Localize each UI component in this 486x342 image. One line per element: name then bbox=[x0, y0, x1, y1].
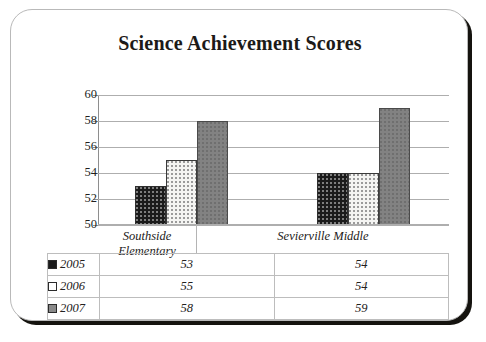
value-cell-2005-1: 54 bbox=[274, 254, 449, 276]
bar-2005-1 bbox=[317, 173, 348, 225]
y-axis-label-54: 54 bbox=[63, 165, 97, 180]
y-axis-line bbox=[98, 95, 99, 225]
table-body: 200553542006555420075859 bbox=[48, 254, 449, 320]
category-label-sevierville: Sevierville Middle bbox=[197, 229, 449, 244]
bar-2006-0 bbox=[166, 160, 197, 225]
plot-area: 505254565860 bbox=[98, 95, 449, 225]
table-row: 20065554 bbox=[48, 276, 449, 298]
bar-2006-1 bbox=[348, 173, 379, 225]
gridline-50 bbox=[98, 225, 449, 226]
y-axis-label-50: 50 bbox=[63, 217, 97, 232]
legend-swatch-2007-icon bbox=[48, 304, 57, 313]
legend-swatch-2005-icon bbox=[48, 260, 57, 269]
legend-cell-2007: 2007 bbox=[48, 298, 100, 320]
gridline-60 bbox=[98, 95, 449, 96]
page-title: Science Achievement Scores bbox=[11, 32, 469, 55]
y-axis-label-60: 60 bbox=[63, 87, 97, 102]
bar-2005-0 bbox=[135, 186, 166, 225]
value-cell-2007-1: 59 bbox=[274, 298, 449, 320]
plot-baseline bbox=[98, 224, 449, 225]
bar-2007-1 bbox=[379, 108, 410, 225]
data-table: 200553542006555420075859 bbox=[47, 253, 449, 320]
legend-label: 2007 bbox=[60, 301, 85, 315]
value-cell-2007-0: 58 bbox=[100, 298, 275, 320]
legend-label: 2006 bbox=[60, 279, 85, 293]
table-row: 20055354 bbox=[48, 254, 449, 276]
legend-swatch-2006-icon bbox=[48, 282, 57, 291]
value-cell-2005-0: 53 bbox=[100, 254, 275, 276]
y-axis-label-56: 56 bbox=[63, 139, 97, 154]
value-cell-2006-1: 54 bbox=[274, 276, 449, 298]
value-cell-2006-0: 55 bbox=[100, 276, 275, 298]
bar-2007-0 bbox=[197, 121, 228, 225]
legend-cell-2006: 2006 bbox=[48, 276, 100, 298]
y-axis-label-58: 58 bbox=[63, 113, 97, 128]
legend-label: 2005 bbox=[60, 257, 85, 271]
y-axis-label-52: 52 bbox=[63, 191, 97, 206]
legend-cell-2005: 2005 bbox=[48, 254, 100, 276]
chart-card: Science Achievement Scores 505254565860 … bbox=[10, 9, 468, 321]
table-row: 20075859 bbox=[48, 298, 449, 320]
